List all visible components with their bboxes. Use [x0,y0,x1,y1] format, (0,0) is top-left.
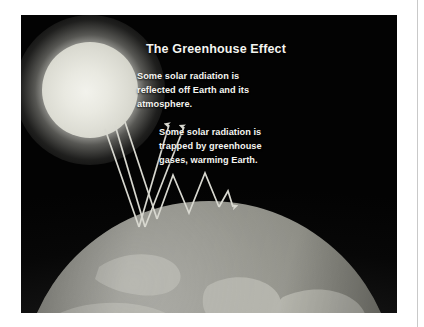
page-background: The Greenhouse Effect Some solar radiati… [0,0,424,327]
caption-reflected-radiation: Some solar radiation is reflected off Ea… [137,69,249,112]
caption-trapped-radiation: Some solar radiation is trapped by green… [159,125,262,168]
incoming-ray-3 [125,122,157,219]
incoming-ray-1 [105,129,139,227]
figure-title: The Greenhouse Effect [146,42,286,56]
greenhouse-effect-illustration: The Greenhouse Effect Some solar radiati… [21,15,397,313]
trapped-radiation-zigzag [157,173,219,219]
trapped-radiation-final-leg [219,191,233,207]
incoming-ray-2 [115,125,145,227]
page-margin-rule [417,0,418,327]
